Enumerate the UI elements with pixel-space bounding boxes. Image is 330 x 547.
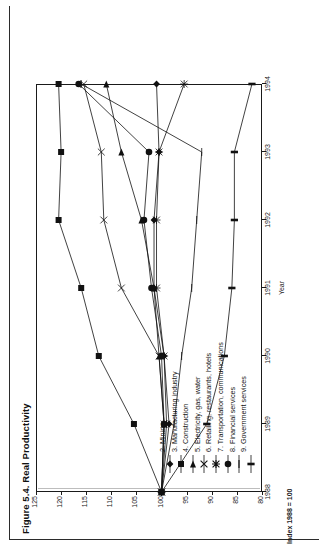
- data-point-marker: [158, 353, 165, 360]
- y-tick-label: 95: [182, 496, 189, 534]
- data-point-marker: [56, 217, 62, 223]
- y-tick-label: 105: [131, 496, 138, 534]
- chart-figure: Figure 5.4. Real Productivity 1251201151…: [22, 64, 297, 534]
- x-tick-mark: [262, 491, 266, 492]
- legend-label: 4. Construction: [181, 404, 190, 452]
- x-tick-label: 1991: [264, 280, 271, 296]
- x-tick-mark: [262, 151, 266, 152]
- y-tick-label: 80: [257, 496, 264, 534]
- y-tick-label: 100: [157, 496, 164, 534]
- y-axis-label: Index 1988 = 100: [286, 489, 293, 544]
- data-point-marker: [118, 149, 124, 156]
- x-tick-mark: [262, 219, 266, 220]
- legend-label: 3. Manufacturing industry: [170, 371, 179, 452]
- y-tick-mark: [187, 492, 188, 495]
- series-line: [59, 84, 162, 492]
- data-point-marker: [148, 285, 155, 292]
- data-point-marker: [155, 148, 163, 156]
- data-point-marker: [231, 219, 238, 222]
- page-rule-left: [9, 6, 10, 540]
- data-point-marker: [153, 81, 160, 88]
- x-tick-label: 1989: [264, 416, 271, 432]
- legend-label: 5. Electricity, gas, water: [193, 377, 202, 452]
- y-tick-mark: [86, 492, 87, 495]
- x-tick-label: 1994: [264, 76, 271, 92]
- y-tick-label: 115: [81, 496, 88, 534]
- y-tick-label: 125: [31, 496, 38, 534]
- x-tick-label: 1988: [264, 484, 271, 500]
- y-tick-mark: [212, 492, 213, 495]
- figure-title: Figure 5.4. Real Productivity: [20, 403, 31, 534]
- data-point-marker: [141, 217, 148, 224]
- y-tick-label: 85: [232, 496, 239, 534]
- x-tick-mark: [262, 355, 266, 356]
- legend-label: 6. Retailing, restaurants, hotels: [204, 353, 213, 452]
- y-tick-label: 110: [106, 496, 113, 534]
- data-point-marker: [158, 491, 165, 494]
- data-point-marker: [248, 83, 255, 86]
- data-point-marker: [118, 285, 125, 292]
- y-tick-mark: [237, 492, 238, 495]
- y-tick-mark: [36, 492, 37, 495]
- legend-marker-bar: [241, 454, 259, 474]
- y-tick-label: 90: [207, 496, 214, 534]
- x-tick-mark: [262, 83, 266, 84]
- x-axis-label: Year: [278, 281, 285, 295]
- data-point-marker: [228, 287, 235, 290]
- x-tick-label: 1993: [264, 144, 271, 160]
- y-tick-mark: [111, 492, 112, 495]
- legend-label: 2. Mining: [158, 423, 167, 452]
- data-point-marker: [56, 81, 62, 87]
- y-tick-mark: [262, 492, 263, 495]
- data-point-marker: [96, 353, 102, 359]
- data-point-marker: [153, 216, 161, 224]
- x-tick-mark: [262, 423, 266, 424]
- legend-label: 9. Government services: [239, 376, 248, 452]
- y-tick-mark: [136, 492, 137, 495]
- x-tick-label: 1992: [264, 212, 271, 228]
- y-tick-mark: [61, 492, 62, 495]
- legend-label: 8. Financial services: [228, 387, 237, 452]
- y-tick-label: 120: [56, 496, 63, 534]
- data-point-marker: [58, 149, 64, 155]
- legend-label: 7. Transportation, communications: [216, 342, 225, 452]
- x-tick-label: 1990: [264, 348, 271, 364]
- data-point-marker: [180, 80, 188, 88]
- figure-page: Figure 5.4. Real Productivity 1251201151…: [0, 0, 330, 547]
- data-point-marker: [103, 81, 109, 88]
- data-point-marker: [146, 149, 153, 156]
- data-point-marker: [78, 285, 84, 291]
- data-point-marker: [131, 421, 137, 427]
- page-rule-bottom: [9, 539, 319, 540]
- data-point-marker: [231, 151, 238, 154]
- x-tick-mark: [262, 287, 266, 288]
